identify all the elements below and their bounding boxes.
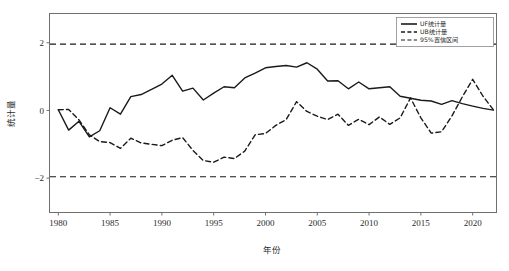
x-tick-label: 1995: [205, 218, 224, 228]
mann-kendall-chart: 198019851990199520002005201020152020 20−…: [0, 0, 509, 271]
y-tick-label: 2: [40, 38, 45, 48]
x-tick-label: 1980: [49, 218, 68, 228]
x-axis-title: 年份: [263, 245, 281, 255]
x-tick-label: 2010: [360, 218, 379, 228]
x-tick-label: 2020: [464, 218, 483, 228]
x-tick-label: 2005: [308, 218, 327, 228]
legend-label-uf: UF统计量: [420, 20, 446, 28]
y-tick-label: −2: [34, 173, 44, 183]
x-tick-label: 2015: [412, 218, 431, 228]
legend-label-confidence: 95%置信区间: [420, 36, 458, 44]
chart-legend[interactable]: UF统计量 UB统计量 95%置信区间: [397, 18, 494, 47]
x-tick-label: 1985: [101, 218, 120, 228]
chart-figure: 198019851990199520002005201020152020 20−…: [0, 0, 509, 271]
y-axis-title: 统计量: [6, 100, 16, 127]
x-tick-label: 2000: [256, 218, 275, 228]
x-tick-label: 1990: [153, 218, 172, 228]
legend-label-ub: UB统计量: [420, 28, 447, 36]
y-tick-label: 0: [40, 106, 45, 116]
